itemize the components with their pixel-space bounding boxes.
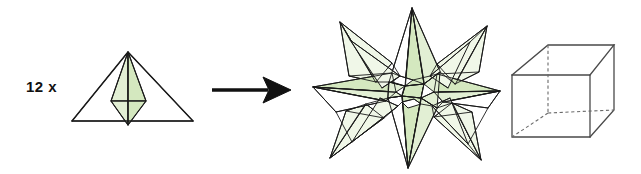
- diagram-canvas: 12 x .ln { stroke:#1a1a1a; stroke-width:…: [0, 0, 641, 174]
- stellated-polyhedron: [313, 8, 500, 168]
- cube-front-face: [512, 75, 590, 137]
- cube-hidden-left-edge: [512, 113, 548, 137]
- cube-hidden-right-edge: [548, 110, 614, 113]
- reference-cube: [512, 45, 614, 137]
- cube-right-face: [590, 45, 614, 137]
- unit-module-figure: [72, 52, 193, 125]
- diagram-svg: .ln { stroke:#1a1a1a; stroke-width:1.1; …: [0, 0, 641, 174]
- right-arrow: [212, 77, 291, 103]
- cube-top-face: [512, 45, 614, 75]
